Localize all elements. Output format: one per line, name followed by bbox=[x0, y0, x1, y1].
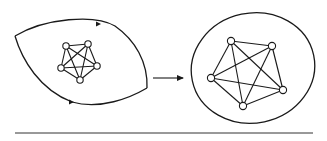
left-k5-graph bbox=[58, 41, 100, 83]
graph-node bbox=[85, 41, 91, 47]
graph-node bbox=[239, 102, 246, 109]
right-k5-graph bbox=[207, 37, 286, 109]
graph-node bbox=[58, 65, 64, 71]
graph-node bbox=[77, 77, 83, 83]
boundary-arrow-top-icon bbox=[96, 22, 101, 27]
graph-edge bbox=[231, 41, 272, 46]
graph-edge bbox=[272, 46, 283, 90]
graph-node bbox=[279, 86, 286, 93]
boundary-arrow-bottom-icon bbox=[69, 100, 74, 105]
diagram-svg bbox=[0, 0, 327, 141]
left-region-lower-arc bbox=[15, 36, 147, 105]
graph-node bbox=[207, 74, 214, 81]
graph-edge bbox=[61, 66, 97, 68]
graph-node bbox=[94, 63, 100, 69]
diagram-canvas bbox=[0, 0, 327, 141]
graph-node bbox=[63, 43, 69, 49]
graph-node bbox=[227, 37, 234, 44]
graph-node bbox=[268, 42, 275, 49]
right-region bbox=[181, 1, 325, 134]
left-region bbox=[15, 19, 147, 104]
